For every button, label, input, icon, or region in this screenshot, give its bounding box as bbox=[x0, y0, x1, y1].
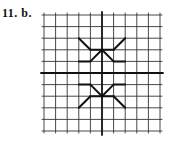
figure-segment bbox=[90, 50, 102, 62]
figure-segment bbox=[79, 38, 91, 50]
figure-segment bbox=[102, 50, 114, 62]
axes bbox=[41, 12, 163, 135]
reflection-segment bbox=[90, 85, 102, 97]
reflection-segment bbox=[79, 96, 91, 108]
reflection-segment bbox=[114, 96, 126, 108]
figure-segment bbox=[114, 38, 126, 50]
coordinate-grid bbox=[0, 0, 169, 142]
reflection-segment bbox=[102, 85, 114, 97]
